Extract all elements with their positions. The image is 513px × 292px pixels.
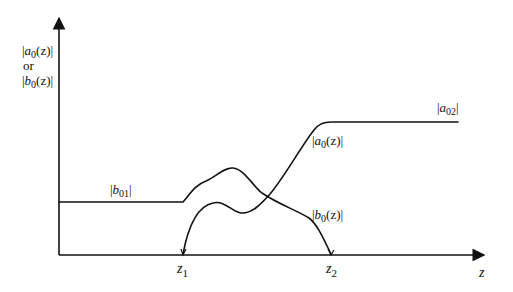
b0-curve [59, 168, 331, 254]
z2-tick-mark [328, 249, 334, 255]
x-axis-label: z [478, 265, 485, 280]
a02-label: |a02| [437, 100, 459, 117]
b01-label: |b01| [110, 182, 132, 199]
b0z-label: |b0(z)| [312, 207, 343, 224]
a0z-label: |a0(z)| [312, 133, 343, 150]
diagram-canvas: |a0(z)| or |b0(z)| |b01| |a02| |a0(z)| |… [0, 0, 513, 292]
z1-label: z1 [176, 261, 188, 279]
y-axis-label-line2: or [23, 58, 35, 73]
z2-label: z2 [325, 261, 337, 279]
y-axis-label-line3: |b0(z)| [22, 73, 53, 90]
